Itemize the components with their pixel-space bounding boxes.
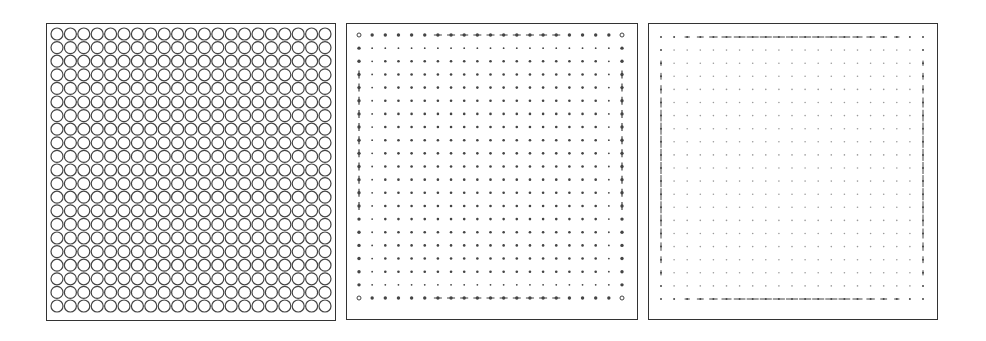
panel-dots [346, 23, 638, 320]
faint-dot-grid [649, 24, 939, 321]
circle-grid [47, 24, 337, 322]
dot-grid [347, 24, 639, 321]
panel-circles [46, 23, 336, 321]
panel-faint-dots [648, 23, 938, 320]
